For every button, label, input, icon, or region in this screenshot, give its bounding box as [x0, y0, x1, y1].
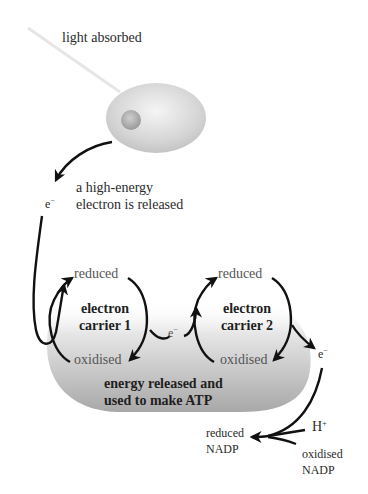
- reduced-nadp-line1: reduced: [206, 426, 244, 440]
- carrier1-name-line1: electron: [70, 301, 140, 318]
- electron-released-line1: a high-energy: [76, 180, 153, 197]
- oxidised-nadp-line2: NADP: [302, 463, 335, 477]
- arrow-oxidised-nadp: [268, 437, 296, 444]
- reduced-nadp-line2: NADP: [206, 442, 239, 456]
- carrier1-oxidised-label: oxidised: [74, 352, 121, 369]
- arrow-electron-release: [56, 142, 112, 180]
- carrier2-reduced-label: reduced: [218, 266, 262, 283]
- carrier2-name-line1: electron: [212, 301, 282, 318]
- electron-released-line2: electron is released: [76, 197, 183, 214]
- reaction-centre: [121, 110, 141, 130]
- energy-released-line1: energy released and: [104, 376, 223, 393]
- chlorophyll-molecule: [106, 83, 206, 153]
- carrier1-reduced-label: reduced: [74, 266, 118, 283]
- energy-released-line2: used to make ATP: [104, 393, 212, 410]
- light-absorbed-label: light absorbed: [62, 30, 142, 47]
- carrier2-oxidised-label: oxidised: [220, 352, 267, 369]
- oxidised-nadp-line1: oxidised: [302, 447, 343, 461]
- carrier1-name-line2: carrier 1: [70, 318, 140, 335]
- arrow-hydrogen: [268, 430, 305, 436]
- electron-symbol-3: e−: [318, 346, 328, 361]
- hydrogen-ion-label: H+: [312, 419, 327, 436]
- electron-symbol-2: e−: [168, 325, 178, 340]
- electron-symbol-1: e−: [45, 196, 55, 211]
- carrier2-name-line2: carrier 2: [212, 318, 282, 335]
